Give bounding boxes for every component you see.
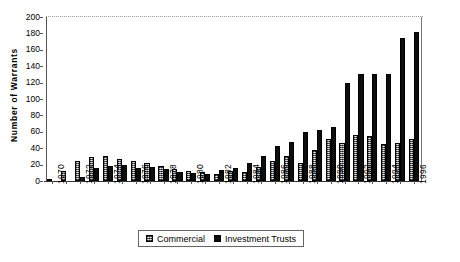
x-tick-mark (205, 181, 206, 184)
x-tick-mark (414, 181, 415, 184)
x-tick-mark (94, 181, 95, 184)
x-tick-label: 1990 (335, 150, 345, 184)
x-tick-mark (177, 181, 178, 184)
x-tick-mark (247, 181, 248, 184)
x-tick-mark (386, 181, 387, 184)
x-tick-label: 1994 (390, 150, 400, 184)
x-tick-mark (261, 181, 262, 184)
x-tick-mark (52, 181, 53, 184)
x-tick-label: 1980 (195, 150, 205, 184)
x-tick-label: 1976 (140, 150, 150, 184)
x-tick-mark (150, 181, 151, 184)
x-tick-mark (233, 181, 234, 184)
x-tick-mark (191, 181, 192, 184)
x-tick-label: 1974 (112, 150, 122, 184)
x-tick-label: 1988 (307, 150, 317, 184)
x-tick-mark (372, 181, 373, 184)
x-tick-label: 1972 (84, 150, 94, 184)
x-tick-mark (289, 181, 290, 184)
x-tick-mark (400, 181, 401, 184)
legend-label-commercial: Commercial (157, 234, 205, 244)
x-tick-label: 1986 (279, 150, 289, 184)
commercial-swatch-icon (146, 235, 153, 242)
x-tick-mark (317, 181, 318, 184)
x-tick-label: 1982 (223, 150, 233, 184)
legend-entry-investment-trusts: Investment Trusts (214, 234, 296, 244)
legend-entry-commercial: Commercial (146, 234, 205, 244)
x-tick-mark (66, 181, 67, 184)
x-tick-mark (358, 181, 359, 184)
x-tick-mark (345, 181, 346, 184)
legend-label-investment-trusts: Investment Trusts (225, 234, 296, 244)
x-tick-mark (80, 181, 81, 184)
x-tick-mark (331, 181, 332, 184)
x-tick-label: 1992 (362, 150, 372, 184)
bar-chart: Number of Warrants 020406080100120140160… (0, 0, 460, 262)
x-tick-mark (122, 181, 123, 184)
x-tick-mark (275, 181, 276, 184)
x-axis-tick-labels: 1970197219741976197819801982198419861988… (0, 0, 460, 262)
x-tick-label: 1978 (168, 150, 178, 184)
x-tick-mark (136, 181, 137, 184)
x-tick-mark (108, 181, 109, 184)
trusts-swatch-icon (214, 235, 221, 242)
x-tick-label: 1984 (251, 150, 261, 184)
x-tick-mark (164, 181, 165, 184)
chart-legend: Commercial Investment Trusts (138, 230, 304, 247)
x-tick-mark (303, 181, 304, 184)
x-tick-mark (219, 181, 220, 184)
x-tick-label: 1996 (418, 150, 428, 184)
x-tick-label: 1970 (56, 150, 66, 184)
